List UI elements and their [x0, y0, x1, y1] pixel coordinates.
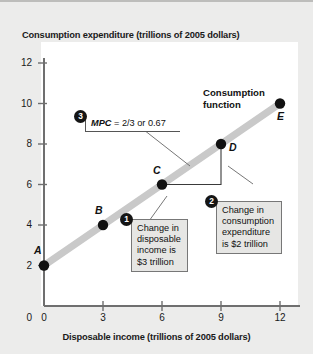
point-label-d: D	[229, 141, 237, 153]
x-tick-label-12: 12	[270, 312, 290, 323]
point-label-c: C	[153, 164, 161, 176]
callout-3-mpc-value: = 2/3 or 0.67	[111, 118, 165, 128]
consumption-function-label: Consumption function	[203, 87, 265, 110]
x-axis-title: Disposable income (trillions of 2005 dol…	[62, 332, 250, 342]
y-ticks	[38, 63, 47, 266]
callout-3-badge: 3	[74, 110, 87, 123]
callout-1-line2: disposable	[137, 234, 183, 245]
y-tick-label-10: 10	[12, 98, 32, 109]
callout-1-box: Change in disposable income is $3 trilli…	[131, 219, 188, 272]
callout-3-mpc-term: MPC	[91, 118, 111, 128]
callout-1-line4: $3 trillion	[137, 257, 183, 268]
y-tick-label-6: 6	[12, 179, 32, 190]
x-tick-label-0: 0	[34, 312, 54, 323]
x-tick-label-3: 3	[93, 312, 113, 323]
callout-2-line1: Change in	[222, 205, 277, 216]
y-tick-label-8: 8	[12, 138, 32, 149]
point-label-e: E	[277, 110, 284, 122]
callout-2-box: Change in consumption expenditure is $2 …	[216, 201, 282, 254]
y-tick-label-4: 4	[12, 219, 32, 230]
chart-figure: Consumption expenditure (trillions of 20…	[0, 6, 313, 354]
data-point-a	[39, 260, 49, 270]
callout-2-badge: 2	[205, 195, 218, 208]
y-tick-label-12: 12	[12, 57, 32, 68]
figure-page: Consumption expenditure (trillions of 20…	[0, 0, 313, 354]
callout-3-box: MPC = 2/3 or 0.67	[85, 116, 180, 132]
leader-line-callout-3	[144, 130, 190, 166]
x-tick-label-9: 9	[211, 312, 231, 323]
leader-line-callout-2	[228, 166, 253, 184]
y-tick-label-0: 0	[12, 312, 32, 323]
callout-2-line3: expenditure	[222, 227, 277, 238]
point-label-b: B	[95, 204, 103, 216]
chart-vector-layer	[0, 6, 313, 354]
callout-2-line2: consumption	[222, 216, 277, 227]
x-tick-label-6: 6	[152, 312, 172, 323]
cf-label-line2: function	[203, 99, 265, 111]
y-tick-label-2: 2	[12, 260, 32, 271]
data-point-c	[157, 179, 167, 189]
callout-2-line4: is $2 trillion	[222, 239, 277, 250]
point-label-a: A	[34, 244, 42, 256]
data-point-b	[98, 220, 108, 230]
callout-1-line3: income is	[137, 245, 183, 256]
callout-1-line1: Change in	[137, 223, 183, 234]
callout-1-badge: 1	[120, 213, 133, 226]
data-point-e	[275, 98, 285, 108]
cf-label-line1: Consumption	[203, 87, 265, 99]
data-point-d	[216, 139, 226, 149]
